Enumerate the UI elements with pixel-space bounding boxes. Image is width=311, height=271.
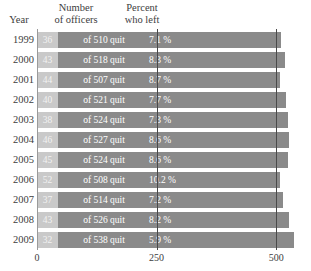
header-percent-line2: who left [125, 14, 160, 25]
label-quit-count: 40 [37, 92, 58, 108]
label-percent: 8.2 % [149, 212, 187, 228]
label-of-total-quit: of 526 quit [60, 212, 148, 228]
gridline-500 [276, 29, 277, 250]
header-number-of-officers: Number of officers [43, 2, 109, 25]
chart-row: 43of 526 quit8.2 % [37, 210, 292, 230]
year-label: 2001 [0, 70, 34, 90]
year-label: 2002 [0, 90, 34, 110]
bar-rows: 36of 510 quit7.1 %43of 518 quit8.3 %44of… [37, 29, 292, 250]
label-quit-count: 45 [37, 152, 58, 168]
chart-row: 45of 524 quit8.6 % [37, 150, 292, 170]
label-quit-count: 43 [37, 212, 58, 228]
chart-row: 46of 527 quit8.6 % [37, 130, 292, 150]
year-label: 2006 [0, 170, 34, 190]
chart-row: 52of 508 quit10.2 % [37, 170, 292, 190]
label-percent: 7.2 % [149, 192, 187, 208]
label-of-total-quit: of 507 quit [60, 72, 148, 88]
label-of-total-quit: of 527 quit [60, 132, 148, 148]
label-of-total-quit: of 508 quit [60, 172, 148, 188]
label-quit-count: 43 [37, 52, 58, 68]
plot-area: 36of 510 quit7.1 %43of 518 quit8.3 %44of… [37, 29, 292, 250]
header-number-line1: Number [59, 2, 93, 13]
x-tick-label: 250 [149, 252, 164, 264]
axis-baseline [37, 29, 38, 250]
column-headers: Year Number of officers Percent who left [0, 0, 311, 29]
year-label: 2004 [0, 130, 34, 150]
header-percent-who-left: Percent who left [112, 2, 172, 25]
label-percent: 7.1 % [149, 32, 187, 48]
x-tick-label: 0 [35, 252, 40, 264]
year-label: 2003 [0, 110, 34, 130]
chart-row: 40of 521 quit7.7 % [37, 90, 292, 110]
chart-row: 43of 518 quit8.3 % [37, 50, 292, 70]
label-of-total-quit: of 514 quit [60, 192, 148, 208]
label-quit-count: 44 [37, 72, 58, 88]
label-quit-count: 46 [37, 132, 58, 148]
chart-row: 32of 538 quit5.9 % [37, 230, 292, 250]
label-of-total-quit: of 510 quit [60, 32, 148, 48]
label-quit-count: 38 [37, 112, 58, 128]
year-label: 2000 [0, 50, 34, 70]
header-percent-line1: Percent [126, 2, 158, 13]
label-percent: 8.7 % [149, 72, 187, 88]
label-percent: 7.7 % [149, 92, 187, 108]
year-label: 2005 [0, 150, 34, 170]
chart-row: 37of 514 quit7.2 % [37, 190, 292, 210]
chart-row: 38of 524 quit7.3 % [37, 110, 292, 130]
x-axis: 0250500 [37, 252, 292, 268]
label-of-total-quit: of 524 quit [60, 152, 148, 168]
label-of-total-quit: of 524 quit [60, 112, 148, 128]
chart-row: 36of 510 quit7.1 % [37, 30, 292, 50]
label-percent: 7.3 % [149, 112, 187, 128]
label-quit-count: 37 [37, 192, 58, 208]
header-year: Year [2, 14, 36, 26]
officer-attrition-chart: Year Number of officers Percent who left… [0, 0, 311, 271]
label-of-total-quit: of 538 quit [60, 232, 148, 248]
label-percent: 8.3 % [149, 52, 187, 68]
label-of-total-quit: of 521 quit [60, 92, 148, 108]
year-label: 2007 [0, 190, 34, 210]
header-number-line2: of officers [54, 14, 97, 25]
x-tick-label: 500 [269, 252, 284, 264]
gridline-250 [157, 29, 158, 250]
label-percent: 10.2 % [149, 172, 187, 188]
label-percent: 5.9 % [149, 232, 187, 248]
chart-row: 44of 507 quit8.7 % [37, 70, 292, 90]
year-label: 1999 [0, 30, 34, 50]
label-quit-count: 36 [37, 32, 58, 48]
label-of-total-quit: of 518 quit [60, 52, 148, 68]
year-label: 2009 [0, 230, 34, 250]
label-percent: 8.6 % [149, 132, 187, 148]
label-percent: 8.6 % [149, 152, 187, 168]
label-quit-count: 32 [37, 232, 58, 248]
year-label: 2008 [0, 210, 34, 230]
label-quit-count: 52 [37, 172, 58, 188]
